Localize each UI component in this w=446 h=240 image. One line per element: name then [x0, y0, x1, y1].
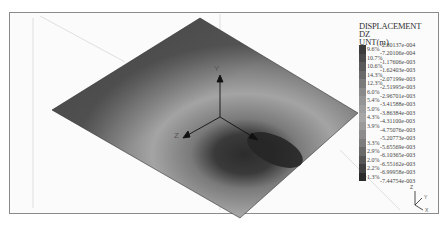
legend-percent: 2.0% — [367, 157, 380, 164]
legend-title: DISPLACEMENT — [359, 22, 445, 30]
legend-swatch — [359, 45, 366, 54]
legend-percent: 9.6% — [367, 46, 380, 53]
legend-value: -7.20106e-004 — [380, 50, 415, 57]
legend-value: -2.51995e-003 — [380, 84, 415, 91]
legend-swatch — [359, 79, 366, 88]
legend-value: -2.07199e-003 — [380, 76, 415, 83]
legend-swatch — [359, 122, 366, 131]
legend-swatch — [359, 130, 366, 139]
legend-value: -4.31100e-003 — [380, 118, 415, 125]
legend-percent: 6.0% — [367, 89, 380, 96]
legend-value: -3.86384e-003 — [380, 110, 415, 117]
legend-swatch — [359, 96, 366, 105]
orientation-triad-icon — [415, 191, 423, 210]
axis-label-z: Z — [174, 131, 179, 140]
legend-swatch — [359, 156, 366, 165]
legend-value: -2.96701e-003 — [380, 93, 415, 100]
triad-label-x: X — [425, 207, 428, 213]
legend-swatch — [359, 54, 366, 63]
legend-value: -1.62403e-003 — [380, 67, 415, 74]
legend-value: -7.44754e-003 — [380, 178, 415, 185]
legend-percent: 2.9% — [367, 148, 380, 155]
legend-value: -4.75076e-003 — [380, 127, 415, 134]
legend-percent: 3.9% — [367, 123, 380, 130]
legend-percent: 1.3% — [367, 174, 380, 181]
legend-value: -6.55162e-003 — [380, 161, 415, 168]
legend-value: -5.65569e-003 — [380, 144, 415, 151]
legend-swatch — [359, 105, 366, 114]
triad-label-y: Y — [424, 194, 427, 200]
legend-percent: 3.3% — [367, 140, 380, 147]
legend-swatch — [359, 113, 366, 122]
legend-swatch — [359, 147, 366, 156]
legend-value: -3.41588e-003 — [380, 101, 415, 108]
axis-label-y: Y — [214, 64, 219, 73]
legend-swatch — [359, 88, 366, 97]
legend-swatch — [359, 71, 366, 80]
legend-percent: 2.2% — [367, 165, 380, 172]
legend-value: -5.20773e-003 — [380, 135, 415, 142]
legend-value: -2.80137e-004 — [380, 42, 415, 49]
legend-swatch — [359, 164, 366, 173]
legend-value: -6.10365e-003 — [380, 152, 415, 159]
legend-swatch — [359, 173, 366, 182]
legend-value: -6.99958e-003 — [380, 169, 415, 176]
legend-swatch — [359, 139, 366, 148]
legend-value: -1.17606e-003 — [380, 59, 415, 66]
legend-percent: 5.0% — [367, 106, 380, 113]
legend-percent: 4.3% — [367, 114, 380, 121]
legend-percent: 5.4% — [367, 97, 380, 104]
triad-label-z: Z — [410, 184, 413, 190]
legend-swatch — [359, 62, 366, 71]
